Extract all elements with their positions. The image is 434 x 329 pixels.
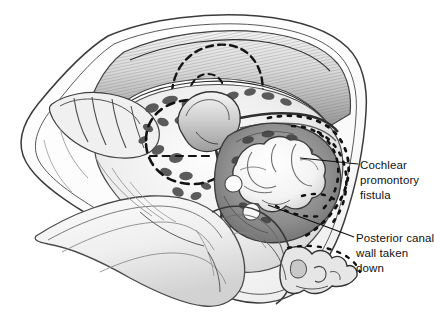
annotation-line: Cochlear [360,158,419,173]
annotation-line: wall taken [356,246,434,261]
annotation-cochlear-promontory-fistula: Cochlear promontory fistula [360,158,419,203]
annotation-line: promontory [360,173,419,188]
annotation-line: down [356,261,434,276]
annotation-line: Posterior canal [356,231,434,246]
annotation-posterior-canal-wall-taken-down: Posterior canal wall taken down [356,231,434,276]
annotation-line: fistula [360,188,419,203]
